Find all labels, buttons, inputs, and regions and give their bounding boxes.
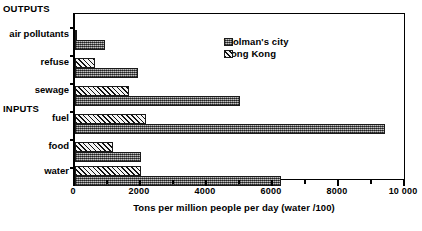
y-axis-tick-3 — [70, 111, 74, 113]
bar-wolmans-city-air-pollutants — [75, 40, 105, 50]
legend-item-hong-kong: Hong Kong — [224, 48, 289, 59]
chart-legend: Wolman's city Hong Kong — [224, 36, 289, 60]
y-axis-tick-2 — [70, 83, 74, 85]
x-axis-tick-label-10000: 10 000 — [389, 186, 418, 196]
bar-hong-kong-sewage — [75, 86, 129, 96]
category-label-sewage: sewage — [0, 84, 69, 95]
category-label-refuse: refuse — [0, 56, 69, 67]
y-axis-tick-0 — [70, 27, 74, 29]
category-label-air-pollutants: air pollutants — [0, 28, 69, 39]
bar-wolmans-city-sewage — [75, 96, 240, 106]
x-axis-tick-label-8000: 8000 — [327, 186, 348, 196]
x-axis-tick-3000 — [172, 180, 174, 184]
category-label-water: water — [0, 165, 69, 176]
bar-hong-kong-water — [75, 166, 141, 176]
legend-swatch-hong-kong — [224, 50, 233, 58]
group-header-outputs: OUTPUTS — [0, 3, 69, 14]
bar-wolmans-city-fuel — [75, 124, 385, 134]
x-axis-tick-label-0: 0 — [70, 186, 75, 196]
bar-hong-kong-food — [75, 142, 113, 152]
bar-wolmans-city-refuse — [75, 68, 138, 78]
category-label-food: food — [0, 140, 69, 151]
y-axis-tick-5 — [70, 167, 74, 169]
bar-hong-kong-refuse — [75, 58, 95, 68]
legend-label-wolmans-city: Wolman's city — [224, 36, 289, 47]
x-axis-tick-label-2000: 2000 — [129, 186, 150, 196]
y-axis-tick-1 — [70, 55, 74, 57]
x-axis-tick-label-4000: 4000 — [195, 186, 216, 196]
x-axis-tick-5000 — [238, 180, 240, 184]
x-axis-tick-7000 — [304, 180, 306, 184]
bar-wolmans-city-food — [75, 152, 141, 162]
bar-chart-figure: OUTPUTS INPUTS air pollutants refuse sew… — [0, 0, 422, 231]
legend-item-wolmans-city: Wolman's city — [224, 36, 289, 47]
y-axis-tick-4 — [70, 139, 74, 141]
legend-swatch-wolmans-city — [224, 38, 233, 46]
category-label-fuel: fuel — [0, 112, 69, 123]
x-axis-tick-1000 — [106, 180, 108, 184]
x-axis-tick-label-6000: 6000 — [261, 186, 282, 196]
bar-hong-kong-fuel — [75, 114, 146, 124]
bar-hong-kong-air-pollutants — [75, 30, 77, 40]
x-axis-title: Tons per million people per day (water /… — [0, 202, 422, 213]
x-axis-tick-9000 — [370, 180, 372, 184]
